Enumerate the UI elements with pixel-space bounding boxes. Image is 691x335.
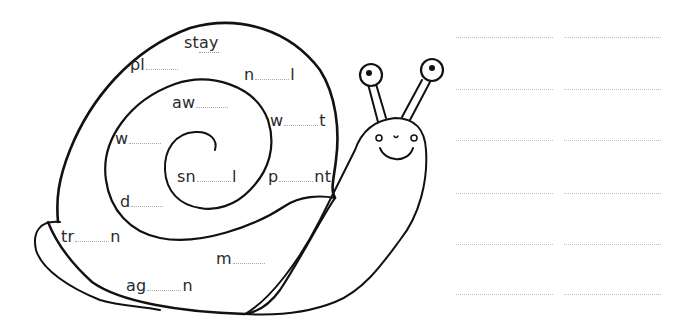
word-after: l <box>232 167 237 186</box>
fill-blank[interactable] <box>129 142 161 144</box>
word-fragment-n-l: nl <box>244 66 295 84</box>
word-fragment-pl: pl <box>130 56 179 74</box>
right-face-eye <box>411 135 417 141</box>
word-after: n <box>182 276 192 295</box>
word-after: nt <box>314 167 331 186</box>
word-fragment-d: d <box>120 193 164 211</box>
word-fragment-w: w <box>115 130 162 148</box>
word-before: p <box>268 167 278 186</box>
answer-line-r3-c2[interactable] <box>564 140 661 141</box>
word-fragment-w-t: wt <box>270 112 326 130</box>
word-fragment-m: m <box>216 250 266 268</box>
word-after: l <box>290 65 295 84</box>
word-before: pl <box>130 55 145 74</box>
word-before: w <box>270 111 283 130</box>
fill-blank[interactable] <box>233 262 265 264</box>
word-before: sn <box>177 167 196 186</box>
answer-line-r1-c1[interactable] <box>456 37 553 38</box>
word-fragment-aw: aw <box>172 94 229 112</box>
word-before: n <box>244 65 254 84</box>
word-before: tr <box>61 227 74 246</box>
word-before: w <box>115 129 128 148</box>
fill-blank[interactable] <box>197 180 231 182</box>
fill-blank[interactable] <box>284 124 318 126</box>
example-prefix: st <box>184 33 199 52</box>
right-pupil <box>429 65 435 71</box>
answer-line-r6-c1[interactable] <box>456 294 553 295</box>
word-fragment-tr-n: trn <box>61 228 121 246</box>
nose <box>394 136 398 138</box>
fill-blank[interactable] <box>279 180 313 182</box>
fill-blank[interactable] <box>196 106 228 108</box>
smile <box>380 148 413 159</box>
right-antenna <box>402 80 430 120</box>
word-before: d <box>120 192 130 211</box>
left-pupil <box>366 70 372 76</box>
answer-line-r5-c1[interactable] <box>456 244 553 245</box>
fill-blank[interactable] <box>146 68 178 70</box>
snail-illustration <box>0 0 691 335</box>
answer-line-r3-c1[interactable] <box>456 140 553 141</box>
word-fragment-p-nt: pnt <box>268 168 331 186</box>
fill-blank[interactable] <box>255 78 289 80</box>
word-before: m <box>216 249 232 268</box>
word-before: aw <box>172 93 195 112</box>
word-fragment-sn-l: snl <box>177 168 237 186</box>
left-antenna <box>368 84 386 122</box>
answer-line-r4-c1[interactable] <box>456 193 553 194</box>
answer-line-r1-c2[interactable] <box>564 37 661 38</box>
example-word: stay <box>184 34 219 52</box>
word-after: n <box>110 227 120 246</box>
example-target-sound: ay <box>199 33 219 53</box>
word-before: ag <box>126 276 146 295</box>
answer-line-r6-c2[interactable] <box>564 294 661 295</box>
word-fragment-ag-n: agn <box>126 277 193 295</box>
fill-blank[interactable] <box>75 240 109 242</box>
word-after: t <box>319 111 325 130</box>
fill-blank[interactable] <box>131 205 163 207</box>
answer-line-r5-c2[interactable] <box>564 244 661 245</box>
answer-line-r4-c2[interactable] <box>564 193 661 194</box>
answer-line-r2-c2[interactable] <box>564 89 661 90</box>
answer-line-r2-c1[interactable] <box>456 89 553 90</box>
left-face-eye <box>376 135 382 141</box>
fill-blank[interactable] <box>147 289 181 291</box>
